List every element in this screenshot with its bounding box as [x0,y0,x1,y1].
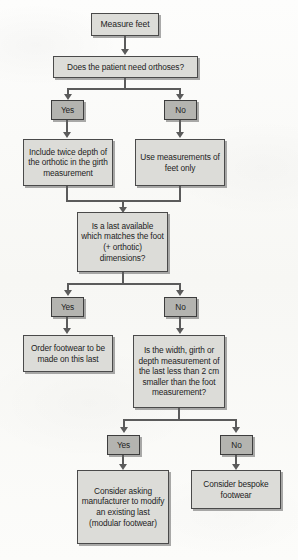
node-need-orthoses: Does the patient need orthoses? [53,56,198,78]
node-consider-bespoke-label: Consider bespoke footwear [195,479,277,500]
node-last-available-label: Is a last available which matches the fo… [81,221,164,263]
flowchart-canvas: Measure feet Does the patient need ortho… [0,0,298,560]
arrowhead-width-to-no [232,427,240,433]
branch-orthoses-yes-label: Yes [55,105,80,116]
node-include-twice-depth-label: Include twice depth of the orthotic in t… [27,147,109,179]
connector-measure-to-orthoses [124,36,126,50]
node-use-measurements-feet: Use measurements of feet only [135,139,225,186]
branch-last-yes-label: Yes [55,302,80,313]
connector-use-measurements-down [179,186,181,200]
arrowhead-last-to-no [176,290,184,296]
connector-width-stem [178,408,180,419]
branch-width-no-label: No [224,440,249,451]
node-measure-feet-label: Measure feet [95,19,155,30]
node-width-girth-depth-label: Is the width, girth or depth measurement… [137,345,221,398]
arrowhead-no-to-use-measurements [176,132,184,138]
branch-last-no-label: No [168,302,193,313]
node-order-footwear: Order footwear to be made on this last [23,335,113,372]
connector-last-stem [122,272,124,283]
node-order-footwear-label: Order footwear to be made on this last [27,343,109,364]
connector-width-bus [123,419,237,421]
node-consider-modular-label: Consider asking manufacturer to modify a… [81,486,165,528]
branch-orthoses-no-label: No [168,105,193,116]
branch-last-yes: Yes [51,297,84,317]
node-measure-feet: Measure feet [91,13,159,36]
connector-orthoses-stem [124,78,126,88]
node-width-girth-depth: Is the width, girth or depth measurement… [133,335,225,408]
branch-width-yes-label: Yes [111,440,136,451]
connector-include-down [66,186,68,200]
connector-last-bus [67,283,181,285]
arrowhead-measure-to-orthoses [121,49,129,55]
branch-orthoses-no: No [164,100,197,120]
branch-last-no: No [164,297,197,317]
node-include-twice-depth: Include twice depth of the orthotic in t… [23,139,113,186]
arrowhead-last-no-to-width [176,328,184,334]
arrowhead-last-to-yes [64,290,72,296]
node-use-measurements-feet-label: Use measurements of feet only [139,152,221,173]
connector-orthoses-bus [67,88,181,90]
arrowhead-yes-to-include [63,132,71,138]
branch-width-yes: Yes [107,435,140,455]
arrowhead-last-yes-to-order [63,328,71,334]
node-consider-bespoke: Consider bespoke footwear [191,470,281,509]
arrowhead-width-to-yes [120,427,128,433]
node-consider-modular: Consider asking manufacturer to modify a… [77,470,169,544]
branch-orthoses-yes: Yes [51,100,84,120]
branch-width-no: No [220,435,253,455]
node-need-orthoses-label: Does the patient need orthoses? [57,62,194,73]
node-last-available: Is a last available which matches the fo… [77,212,168,272]
